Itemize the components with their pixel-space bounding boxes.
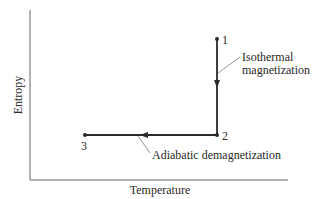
isothermal-leader-line	[218, 57, 240, 73]
y-axis-label: Entropy	[11, 76, 25, 115]
point-1	[215, 37, 219, 41]
isothermal-label-line1: Isothermal	[242, 50, 294, 64]
x-axis-label: Temperature	[130, 183, 190, 197]
point-2-label: 2	[222, 129, 228, 143]
adiabatic-leader-line	[138, 136, 150, 153]
arrow-left-icon	[140, 132, 148, 138]
point-3-label: 3	[81, 139, 87, 153]
point-2	[215, 133, 219, 137]
entropy-temperature-diagram: Entropy Temperature 1 2 3 Isothermal mag…	[0, 0, 324, 199]
adiabatic-label: Adiabatic demagnetization	[152, 148, 281, 162]
arrow-down-icon	[214, 80, 220, 88]
point-1-label: 1	[222, 33, 228, 47]
isothermal-label-line2: magnetization	[242, 63, 310, 77]
point-3	[83, 133, 87, 137]
